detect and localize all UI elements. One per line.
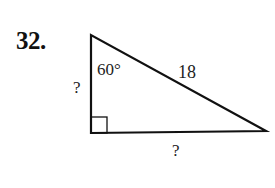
right-angle-marker (91, 117, 107, 133)
triangle-figure: 60° 18 ? ? (0, 0, 275, 188)
horizontal-leg-label: ? (172, 141, 180, 160)
angle-label: 60° (97, 60, 121, 79)
problem-32: 32. 60° 18 ? ? (0, 0, 275, 188)
triangle-outline (91, 35, 266, 133)
hypotenuse-label: 18 (178, 62, 196, 82)
vertical-leg-label: ? (73, 78, 81, 97)
